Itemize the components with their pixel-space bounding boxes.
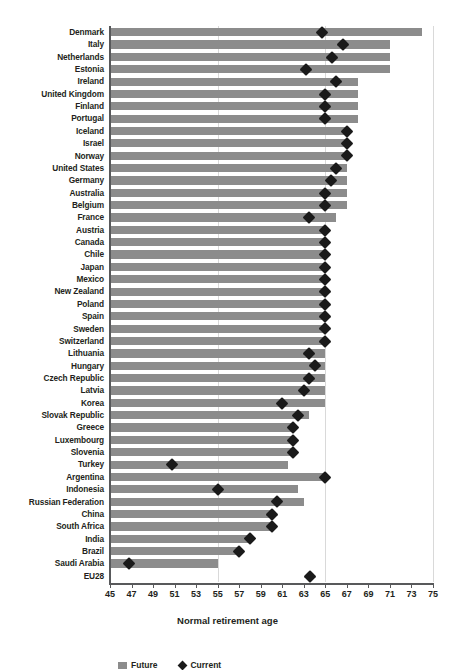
category-label: Canada — [75, 236, 104, 249]
x-axis-label: Normal retirement age — [0, 615, 455, 626]
category-label: Spain — [82, 310, 104, 323]
chart-row — [110, 520, 433, 533]
bar — [110, 386, 325, 394]
chart-row — [110, 88, 433, 101]
x-tick — [368, 583, 369, 588]
category-label: Argentina — [66, 471, 104, 484]
legend-label-future: Future — [131, 660, 157, 670]
category-label: Latvia — [81, 384, 104, 397]
x-tick-label: 53 — [191, 589, 201, 599]
bar — [110, 176, 347, 184]
category-label: Indonesia — [66, 483, 104, 496]
x-tick-label: 75 — [428, 589, 438, 599]
category-label: Turkey — [78, 458, 104, 471]
chart-row — [110, 261, 433, 274]
x-tick — [261, 583, 262, 588]
chart-row — [110, 137, 433, 150]
gridline-75 — [433, 26, 434, 582]
chart-row — [110, 38, 433, 51]
chart-row — [110, 557, 433, 570]
chart-row — [110, 434, 433, 447]
x-tick — [347, 583, 348, 588]
chart-row — [110, 100, 433, 113]
bar — [110, 226, 325, 234]
x-tick — [411, 583, 412, 588]
category-label: Chile — [84, 248, 104, 261]
y-axis-line — [109, 26, 111, 584]
chart-row — [110, 298, 433, 311]
category-label: Portugal — [71, 112, 104, 125]
x-tick-label: 59 — [256, 589, 266, 599]
chart-row — [110, 545, 433, 558]
chart-row — [110, 75, 433, 88]
bar — [110, 152, 347, 160]
category-label: Mexico — [76, 273, 104, 286]
category-label: France — [77, 211, 104, 224]
x-tick-label: 55 — [213, 589, 223, 599]
category-label: Sweden — [73, 323, 104, 336]
bar — [110, 139, 347, 147]
category-label: Ireland — [77, 75, 104, 88]
chart-row — [110, 421, 433, 434]
category-label: Estonia — [75, 63, 104, 76]
category-label: United Kingdom — [41, 88, 104, 101]
bar — [110, 164, 347, 172]
chart-row — [110, 174, 433, 187]
category-label: Slovenia — [71, 446, 104, 459]
chart-row — [110, 323, 433, 336]
chart-row — [110, 162, 433, 175]
x-tick — [282, 583, 283, 588]
bar — [110, 288, 325, 296]
bar — [110, 461, 288, 469]
chart-row — [110, 570, 433, 583]
chart-row — [110, 458, 433, 471]
bar — [110, 65, 390, 73]
bar — [110, 535, 250, 543]
chart-row — [110, 285, 433, 298]
chart-legend: Future Current — [118, 660, 221, 670]
category-label: Hungary — [71, 360, 104, 373]
chart-row — [110, 347, 433, 360]
bar — [110, 275, 325, 283]
bar — [110, 78, 358, 86]
chart-row — [110, 224, 433, 237]
category-label: Luxembourg — [55, 434, 104, 447]
chart-row — [110, 211, 433, 224]
chart-row — [110, 372, 433, 385]
chart-row — [110, 409, 433, 422]
bar — [110, 473, 325, 481]
bar — [110, 411, 309, 419]
diamond-marker — [319, 248, 332, 261]
category-label: Belgium — [72, 199, 104, 212]
category-label: United States — [52, 162, 104, 175]
x-tick-label: 73 — [406, 589, 416, 599]
chart-row — [110, 471, 433, 484]
bar — [110, 448, 293, 456]
x-tick — [325, 583, 326, 588]
bar — [110, 53, 390, 61]
chart-row — [110, 51, 433, 64]
category-label: Japan — [81, 261, 104, 274]
bar — [110, 312, 325, 320]
chart-row — [110, 112, 433, 125]
legend-item-future: Future — [118, 660, 157, 670]
x-axis-line — [109, 583, 434, 585]
category-label: Netherlands — [57, 51, 104, 64]
x-tick-label: 63 — [299, 589, 309, 599]
x-tick — [433, 583, 434, 588]
x-tick-label: 49 — [148, 589, 158, 599]
bar — [110, 189, 347, 197]
bar — [110, 201, 347, 209]
chart-row — [110, 384, 433, 397]
chart-row — [110, 125, 433, 138]
chart-row — [110, 248, 433, 261]
category-label: Italy — [88, 38, 104, 51]
bar — [110, 522, 272, 530]
category-label: Russian Federation — [29, 496, 104, 509]
bar — [110, 399, 325, 407]
bar — [110, 337, 325, 345]
x-tick — [132, 583, 133, 588]
bar — [110, 127, 347, 135]
bar — [110, 263, 325, 271]
x-tick-label: 65 — [320, 589, 330, 599]
